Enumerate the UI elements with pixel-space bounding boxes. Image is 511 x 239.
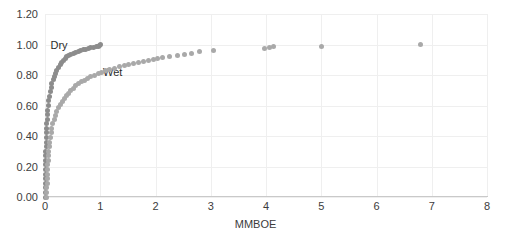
data-point-wet — [45, 176, 50, 181]
data-point-wet — [45, 172, 50, 177]
data-point-wet — [44, 195, 49, 200]
y-axis-tick-label: 0.20 — [0, 162, 38, 173]
data-point-wet — [48, 135, 53, 140]
data-point-wet — [47, 144, 52, 149]
gridline-vertical — [266, 14, 267, 197]
data-point-wet — [197, 49, 202, 54]
x-axis-tick-label: 2 — [146, 201, 166, 212]
data-point-dry — [47, 94, 52, 99]
x-axis-tick-label: 4 — [256, 201, 276, 212]
y-axis-tick-label: 1.20 — [0, 9, 38, 20]
y-axis-tick-label: 0.60 — [0, 101, 38, 112]
x-axis-tick-label: 1 — [90, 201, 110, 212]
x-axis-tick-label: 0 — [35, 201, 55, 212]
y-axis-tick-label: 1.00 — [0, 40, 38, 51]
data-point-wet — [189, 51, 194, 56]
x-axis-tick-label: 7 — [422, 201, 442, 212]
data-point-wet — [211, 48, 216, 53]
gridline-vertical — [321, 14, 322, 197]
gridline-vertical — [156, 14, 157, 197]
data-point-wet — [46, 158, 51, 163]
gridline-vertical — [377, 14, 378, 197]
chart-container: 0.000.200.400.600.801.001.20 012345678 M… — [0, 0, 511, 239]
y-axis-tick-label: 0.80 — [0, 70, 38, 81]
gridline-horizontal — [45, 197, 487, 198]
data-point-wet — [319, 44, 324, 49]
x-axis-tick-label: 5 — [311, 201, 331, 212]
x-axis-tick-label: 8 — [477, 201, 497, 212]
data-point-wet — [47, 140, 52, 145]
data-point-dry — [46, 103, 51, 108]
gridline-vertical — [432, 14, 433, 197]
x-axis-tick-label: 6 — [367, 201, 387, 212]
data-point-wet — [45, 181, 50, 186]
gridline-vertical — [487, 14, 488, 197]
y-axis-tick-label: 0.40 — [0, 131, 38, 142]
x-axis-tick-label: 3 — [201, 201, 221, 212]
series-label-dry: Dry — [51, 40, 68, 51]
data-point-wet — [182, 52, 187, 57]
data-point-dry — [45, 117, 50, 122]
y-axis-tick-label: 0.00 — [0, 192, 38, 203]
x-axis-title: MMBOE — [0, 219, 511, 230]
data-point-wet — [175, 53, 180, 58]
gridline-vertical — [211, 14, 212, 197]
x-axis-line — [45, 196, 488, 197]
